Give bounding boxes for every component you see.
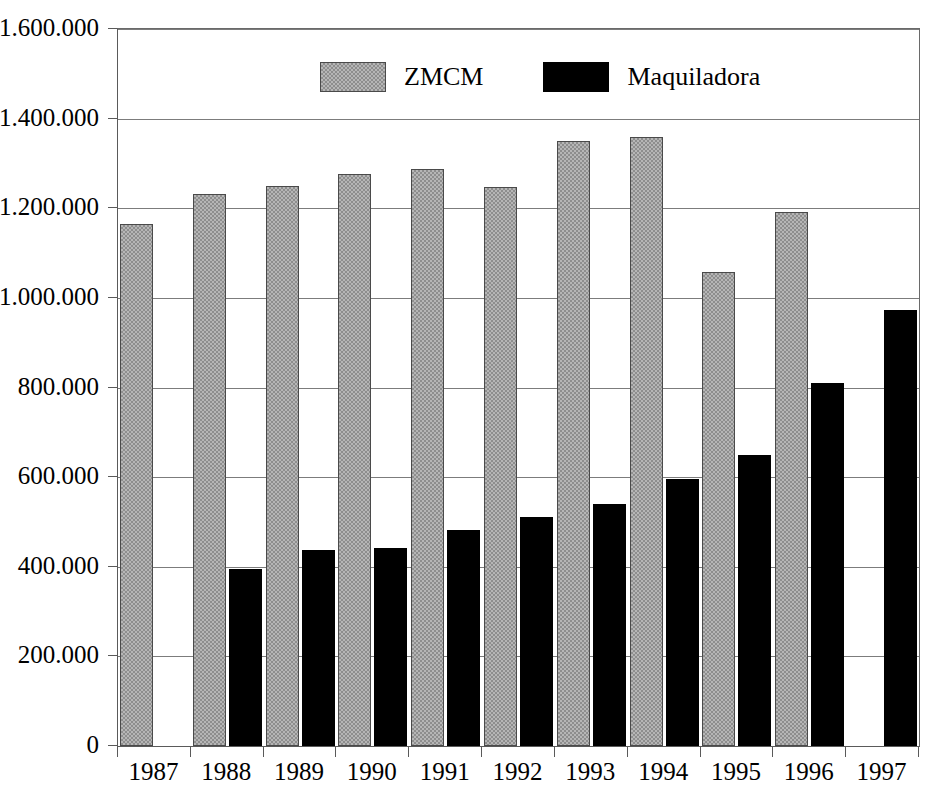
y-tick-label: 400.000 xyxy=(18,553,99,578)
bar-zmcm-1991 xyxy=(411,169,444,746)
x-tick-label: 1987 xyxy=(117,758,190,786)
bar-zmcm-1992 xyxy=(484,187,517,746)
legend-item-zmcm[interactable]: ZMCM xyxy=(320,62,483,92)
chart-legend: ZMCMMaquiladora xyxy=(320,62,760,92)
x-tick-mark xyxy=(700,746,701,757)
y-tick-mark xyxy=(108,297,117,298)
y-tick-mark xyxy=(108,566,117,567)
x-tick-mark xyxy=(190,746,191,757)
y-tick-label: 1.600.000 xyxy=(0,15,99,40)
bar-zmcm-1987 xyxy=(120,224,153,746)
bar-zmcm-1996 xyxy=(775,212,808,746)
bar-zmcm-1989 xyxy=(266,186,299,746)
x-tick-label: 1997 xyxy=(845,758,918,786)
bar-zmcm-1990 xyxy=(338,174,371,746)
y-tick-mark xyxy=(108,207,117,208)
x-tick-label: 1995 xyxy=(700,758,773,786)
y-tick-mark xyxy=(108,745,117,746)
bar-maquiladora-1991 xyxy=(447,530,480,746)
x-tick-mark xyxy=(554,746,555,757)
bar-zmcm-1995 xyxy=(702,272,735,746)
gray-dither-swatch xyxy=(320,62,386,92)
x-tick-mark xyxy=(263,746,264,757)
legend-item-maquiladora[interactable]: Maquiladora xyxy=(543,62,760,92)
x-tick-label: 1993 xyxy=(554,758,627,786)
gridline xyxy=(118,746,919,747)
bar-maquiladora-1994 xyxy=(666,479,699,746)
bar-maquiladora-1990 xyxy=(374,548,407,746)
x-tick-label: 1994 xyxy=(627,758,700,786)
black-solid-swatch xyxy=(543,62,609,92)
x-tick-mark xyxy=(918,746,919,757)
x-tick-label: 1988 xyxy=(190,758,263,786)
y-tick-mark xyxy=(108,387,117,388)
y-tick-label: 1.000.000 xyxy=(0,284,99,309)
bar-maquiladora-1988 xyxy=(229,569,262,746)
x-tick-mark xyxy=(335,746,336,757)
bar-zmcm-1988 xyxy=(193,194,226,746)
gridline xyxy=(118,208,919,209)
x-tick-mark xyxy=(772,746,773,757)
y-tick-mark xyxy=(108,655,117,656)
x-tick-mark xyxy=(627,746,628,757)
gridline xyxy=(118,29,919,30)
x-tick-mark xyxy=(845,746,846,757)
y-tick-label: 0 xyxy=(87,732,100,757)
y-tick-label: 800.000 xyxy=(18,374,99,399)
y-tick-mark xyxy=(108,476,117,477)
x-tick-label: 1989 xyxy=(263,758,336,786)
x-tick-label: 1996 xyxy=(772,758,845,786)
legend-label: Maquiladora xyxy=(627,64,760,90)
y-tick-label: 1.200.000 xyxy=(0,194,99,219)
y-tick-mark xyxy=(108,118,117,119)
bar-maquiladora-1997 xyxy=(884,310,917,746)
y-tick-label: 600.000 xyxy=(18,463,99,488)
plot-area xyxy=(117,28,920,747)
bar-zmcm-1994 xyxy=(630,137,663,746)
bar-maquiladora-1995 xyxy=(738,455,771,746)
x-tick-label: 1990 xyxy=(335,758,408,786)
bar-maquiladora-1996 xyxy=(811,383,844,746)
y-tick-label: 200.000 xyxy=(18,642,99,667)
bar-chart: 0200.000400.000600.000800.0001.000.0001.… xyxy=(0,0,932,807)
x-tick-label: 1991 xyxy=(408,758,481,786)
bar-maquiladora-1992 xyxy=(520,517,553,746)
x-tick-mark xyxy=(117,746,118,757)
gridline xyxy=(118,119,919,120)
x-tick-mark xyxy=(481,746,482,757)
x-tick-label: 1992 xyxy=(481,758,554,786)
x-tick-mark xyxy=(408,746,409,757)
bar-maquiladora-1989 xyxy=(302,550,335,746)
bar-maquiladora-1993 xyxy=(593,504,626,746)
y-tick-mark xyxy=(108,28,117,29)
bar-zmcm-1993 xyxy=(557,141,590,746)
legend-label: ZMCM xyxy=(404,64,483,90)
y-tick-label: 1.400.000 xyxy=(0,105,99,130)
